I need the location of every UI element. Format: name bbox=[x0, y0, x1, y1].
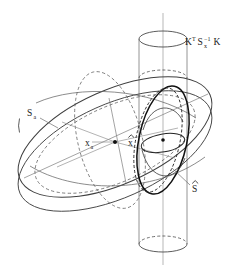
cylinder-label-sub2: x bbox=[204, 43, 207, 49]
prior-ellipsoid-label-sub: a bbox=[34, 114, 37, 120]
estimate-center-dot bbox=[161, 138, 165, 142]
cylinder-label-base2: S bbox=[198, 37, 203, 47]
cylinder-label-base3: K bbox=[214, 37, 221, 47]
cylinder-label-sup2: −1 bbox=[204, 36, 210, 42]
prior-point-label-base: x bbox=[85, 138, 90, 148]
cylinder-label-sup1: T bbox=[192, 36, 196, 42]
cylinder-label-base1: K bbox=[185, 37, 192, 47]
estimate-point-label-base: x bbox=[128, 138, 133, 148]
figure-root: K T S x −1 K S a x a x S bbox=[0, 0, 241, 276]
prior-center-dot bbox=[113, 140, 117, 144]
prior-point-label-sub: a bbox=[91, 144, 94, 150]
cylinder-label-group: K T S x −1 K bbox=[185, 36, 221, 49]
posterior-ellipsoid-label-base: S bbox=[192, 184, 197, 194]
prior-ellipsoid-label-base: S bbox=[27, 108, 32, 118]
ellipsoid-cylinder-diagram: K T S x −1 K S a x a x S bbox=[0, 0, 241, 276]
